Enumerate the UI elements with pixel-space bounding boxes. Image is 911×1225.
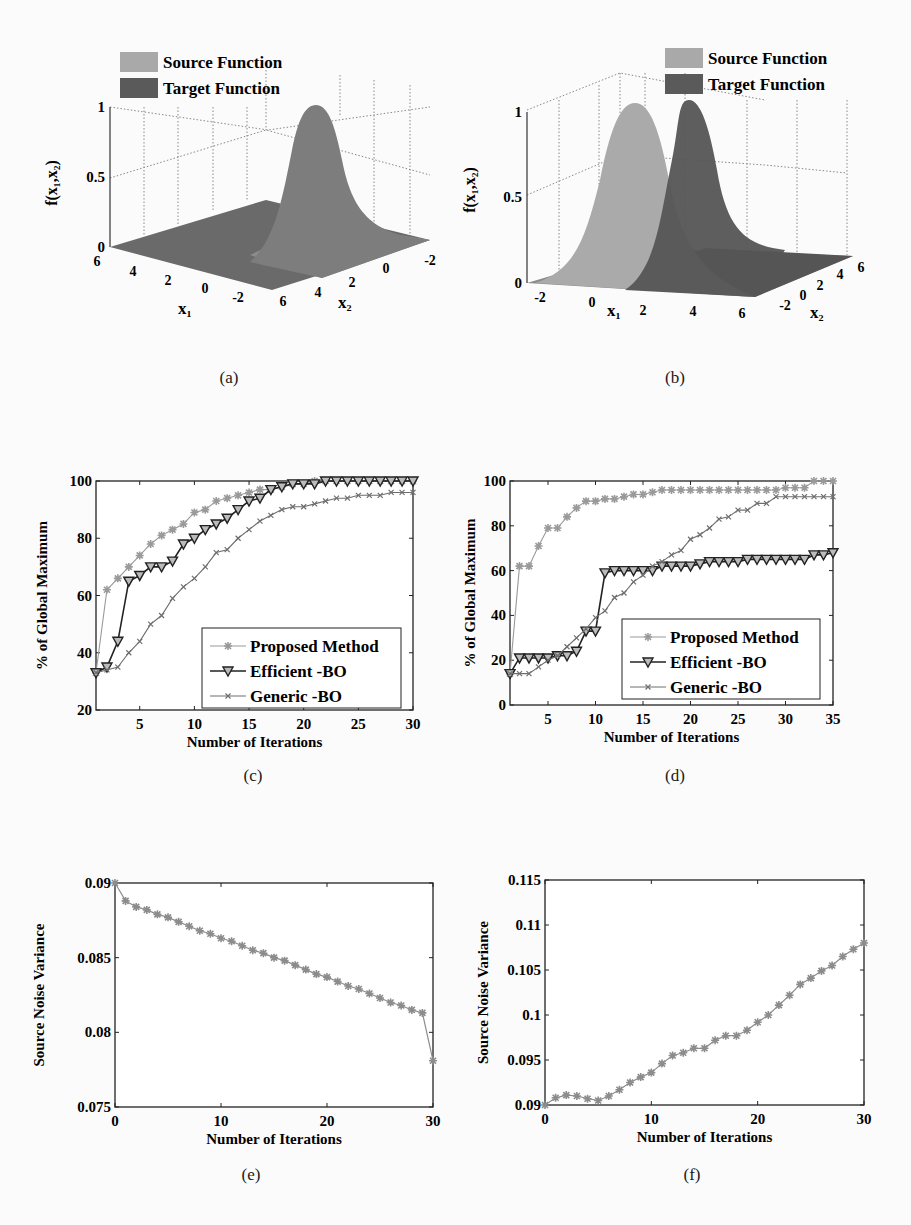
star-marker bbox=[649, 488, 657, 496]
star-marker bbox=[807, 974, 815, 982]
panel-f: 01020300.090.0950.10.1050.110.115Number … bbox=[455, 820, 911, 1150]
star-marker bbox=[647, 1069, 655, 1077]
legend-label-target: Target Function bbox=[163, 79, 281, 98]
panel-b: 00.51f(x₁,x₂)-20246-20246x₁x₂Source Func… bbox=[455, 0, 911, 380]
star-marker bbox=[706, 486, 714, 494]
y-tick-label: 20 bbox=[491, 652, 506, 668]
y-tick-label: 0.115 bbox=[508, 872, 541, 888]
star-marker bbox=[630, 490, 638, 498]
caption-b: (b) bbox=[655, 368, 695, 388]
star-marker bbox=[582, 497, 590, 505]
x-tick-label: 25 bbox=[351, 716, 366, 732]
star-marker bbox=[217, 934, 225, 942]
star-marker bbox=[552, 1094, 560, 1102]
star-marker bbox=[791, 484, 799, 492]
y-tick-label: 60 bbox=[491, 563, 506, 579]
star-marker bbox=[679, 1049, 687, 1057]
y-tick-label: 0.08 bbox=[85, 1024, 111, 1040]
legend-label-source: Source Function bbox=[708, 49, 828, 68]
x2-tick-label: 4 bbox=[837, 267, 844, 282]
star-marker bbox=[238, 942, 246, 950]
legend-label-target: Target Function bbox=[708, 75, 826, 94]
x-tick-label: 30 bbox=[406, 716, 421, 732]
star-marker bbox=[701, 1044, 709, 1052]
x1-tick-label: 6 bbox=[94, 254, 101, 269]
star-marker bbox=[114, 574, 122, 582]
caption-f: (f) bbox=[672, 1165, 712, 1185]
surface-peak bbox=[250, 105, 430, 278]
y-tick-label: 40 bbox=[77, 645, 92, 661]
x2-tick-label: 2 bbox=[349, 275, 356, 290]
x1-axis-label: x₁ bbox=[178, 299, 192, 318]
caption-c: (c) bbox=[233, 766, 273, 786]
star-marker bbox=[103, 586, 111, 594]
y-tick-label: 0.09 bbox=[85, 875, 111, 891]
x-axis-label: Number of Iterations bbox=[206, 1131, 342, 1147]
star-marker bbox=[516, 562, 524, 570]
y-tick-label: 0.075 bbox=[77, 1099, 111, 1115]
y-tick-label: 20 bbox=[77, 702, 92, 718]
y-axis-label: % of Global Maximum bbox=[34, 521, 50, 670]
star-marker bbox=[573, 504, 581, 512]
star-marker bbox=[429, 1057, 437, 1065]
star-marker bbox=[179, 520, 187, 528]
line-chart-e: 01020300.0750.080.0850.09Number of Itera… bbox=[0, 820, 455, 1150]
star-marker bbox=[860, 939, 868, 947]
star-marker bbox=[344, 982, 352, 990]
y-tick-label: 0 bbox=[499, 697, 507, 713]
x1-tick-label: -2 bbox=[534, 290, 546, 305]
panel-e: 01020300.0750.080.0850.09Number of Itera… bbox=[0, 820, 455, 1150]
x2-axis-label: x₂ bbox=[810, 303, 824, 322]
y-tick-label: 0.095 bbox=[507, 1052, 541, 1068]
x-tick-label: 0 bbox=[541, 1111, 549, 1127]
star-marker bbox=[615, 1086, 623, 1094]
star-marker bbox=[584, 1095, 592, 1103]
panel-c: 5101520253020406080100Number of Iteratio… bbox=[0, 420, 455, 790]
star-marker bbox=[562, 1091, 570, 1099]
x1-tick-label: 4 bbox=[690, 304, 697, 319]
star-marker bbox=[143, 906, 151, 914]
z-axis-label: f(x₁,x₂) bbox=[43, 160, 61, 206]
star-marker bbox=[690, 1044, 698, 1052]
x-tick-label: 15 bbox=[636, 711, 651, 727]
star-marker bbox=[796, 980, 804, 988]
z-tick-label: 1 bbox=[515, 104, 523, 120]
star-marker bbox=[164, 913, 172, 921]
star-marker bbox=[687, 486, 695, 494]
x-axis-label: Number of Iterations bbox=[187, 734, 323, 750]
grid-line bbox=[110, 107, 430, 130]
x1-tick-label: 6 bbox=[739, 306, 746, 321]
star-marker bbox=[786, 991, 794, 999]
star-marker bbox=[592, 497, 600, 505]
x-tick-label: 20 bbox=[683, 711, 698, 727]
x-tick-label: 10 bbox=[214, 1113, 229, 1129]
star-marker bbox=[715, 486, 723, 494]
x-tick-label: 20 bbox=[320, 1113, 335, 1129]
star-marker bbox=[820, 477, 828, 485]
star-marker bbox=[408, 1006, 416, 1014]
star-marker bbox=[605, 1092, 613, 1100]
star-marker bbox=[801, 484, 809, 492]
star-marker bbox=[245, 488, 253, 496]
star-marker bbox=[601, 495, 609, 503]
x-tick-label: 0 bbox=[111, 1113, 119, 1129]
x-tick-label: 35 bbox=[826, 711, 841, 727]
x-axis-label: Number of Iterations bbox=[637, 1129, 773, 1145]
z-tick-label: 0 bbox=[98, 239, 106, 255]
y-tick-label: 80 bbox=[491, 518, 506, 534]
star-marker bbox=[302, 966, 310, 974]
panel-d: 5101520253035020406080100Number of Itera… bbox=[455, 420, 911, 790]
star-marker bbox=[125, 563, 133, 571]
z-tick-label: 0.5 bbox=[86, 169, 105, 185]
legend-label: Efficient -BO bbox=[250, 662, 347, 681]
star-marker bbox=[234, 491, 242, 499]
star-marker bbox=[249, 946, 257, 954]
star-marker bbox=[175, 918, 183, 926]
x2-tick-label: 6 bbox=[858, 260, 865, 275]
z-tick-label: 0.5 bbox=[503, 189, 522, 205]
x1-tick-label: 2 bbox=[165, 273, 172, 288]
star-marker bbox=[764, 1011, 772, 1019]
x1-tick-label: -2 bbox=[232, 290, 244, 305]
star-marker bbox=[639, 490, 647, 498]
star-marker bbox=[206, 930, 214, 938]
